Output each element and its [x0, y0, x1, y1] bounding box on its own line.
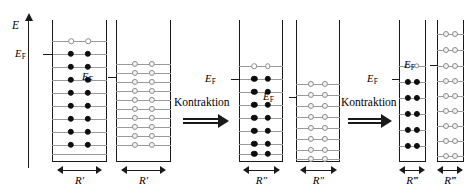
electron-marker [308, 92, 314, 98]
electron-marker [405, 95, 411, 101]
electron-marker [85, 116, 91, 122]
electron-marker [132, 61, 138, 67]
electron-marker [132, 115, 138, 121]
width-label-well-6: R‴ [435, 175, 465, 186]
electron-marker [322, 147, 328, 153]
electron-marker [452, 123, 458, 129]
electron-marker [322, 103, 328, 109]
electron-marker [443, 31, 449, 37]
energy-axis-line [28, 20, 29, 168]
fermi-tick-well-1 [43, 54, 53, 55]
fermi-label-well-3: EF [205, 74, 216, 85]
width-label-well-4: R″ [300, 175, 337, 186]
electron-marker [68, 116, 74, 122]
electron-marker [85, 51, 91, 57]
electron-marker [452, 31, 458, 37]
electron-marker [251, 76, 257, 82]
electron-marker [265, 128, 271, 134]
potential-well-2 [116, 20, 171, 162]
fermi-tick-well-3 [231, 79, 240, 80]
kontraktion-label-1: Kontraktion [174, 97, 230, 109]
electron-marker [149, 124, 155, 130]
width-label-well-3: R″ [243, 175, 280, 186]
electron-marker [132, 88, 138, 94]
electron-marker [149, 79, 155, 85]
electron-marker [414, 63, 419, 68]
electron-marker [414, 127, 420, 133]
electron-marker [308, 125, 314, 131]
electron-marker [452, 153, 458, 159]
electron-marker [68, 64, 74, 70]
electron-marker [251, 141, 257, 147]
fermi-label-well-4: EF [263, 92, 274, 103]
energy-levels-well-3 [240, 20, 282, 161]
electron-marker [405, 111, 411, 117]
electron-marker [308, 81, 314, 87]
electron-marker [132, 70, 138, 76]
electron-marker [452, 93, 458, 99]
electron-marker [265, 151, 271, 157]
kontraktion-label-2: Kontraktion [341, 97, 397, 109]
electron-marker [132, 106, 138, 112]
electron-marker [85, 90, 91, 96]
electron-marker [149, 133, 155, 139]
electron-marker [85, 64, 91, 70]
electron-marker [68, 129, 74, 135]
fermi-tick-well-5 [392, 79, 400, 80]
electron-marker [452, 63, 458, 69]
electron-marker [443, 153, 449, 159]
electron-marker [308, 156, 314, 162]
electron-marker [265, 63, 271, 69]
electron-marker [85, 38, 91, 44]
electron-marker [68, 77, 74, 83]
electron-marker [149, 70, 155, 76]
energy-levels-well-5 [400, 20, 425, 161]
electron-marker [132, 124, 138, 130]
electron-marker [308, 147, 314, 153]
potential-well-4 [296, 20, 340, 162]
electron-marker [322, 81, 328, 87]
electron-marker [251, 128, 257, 134]
electron-marker [68, 103, 74, 109]
energy-levels-well-2 [117, 20, 170, 161]
electron-marker [308, 114, 314, 120]
electron-marker [443, 63, 449, 69]
energy-axis-label: E [12, 20, 19, 32]
electron-marker [322, 92, 328, 98]
electron-marker [452, 108, 458, 114]
electron-marker [452, 47, 458, 53]
electron-marker [251, 89, 257, 95]
fermi-tick-well-6 [430, 65, 438, 66]
electron-marker [68, 51, 74, 57]
electron-marker [443, 78, 449, 84]
electron-marker [265, 115, 271, 121]
electron-marker [443, 47, 449, 53]
potential-well-3 [239, 20, 283, 162]
electron-marker [414, 79, 420, 85]
electron-marker [308, 103, 314, 109]
electron-marker [414, 95, 420, 101]
electron-marker [265, 76, 271, 82]
electron-marker [68, 90, 74, 96]
electron-marker [68, 142, 74, 148]
electron-marker [322, 156, 328, 162]
electron-marker [308, 136, 314, 142]
energy-levels-well-4 [297, 20, 339, 161]
electron-marker [251, 63, 257, 69]
fermi-label-well-2: EF [82, 72, 93, 83]
fermi-label-well-1: EF [15, 49, 26, 60]
electron-marker [414, 143, 420, 149]
potential-well-1 [52, 20, 107, 162]
electron-marker [149, 88, 155, 94]
electron-marker [452, 138, 458, 144]
electron-marker [68, 38, 74, 44]
electron-marker [132, 97, 138, 103]
electron-marker [322, 114, 328, 120]
electron-marker [149, 142, 155, 148]
electron-marker [322, 125, 328, 131]
electron-marker [452, 78, 458, 84]
kontraktion-arrow-2 [348, 114, 392, 128]
electron-marker [443, 123, 449, 129]
width-label-well-2: R′ [121, 175, 166, 186]
electron-marker [132, 79, 138, 85]
